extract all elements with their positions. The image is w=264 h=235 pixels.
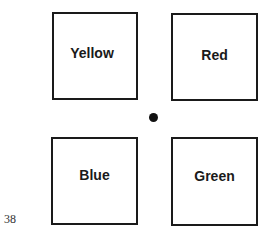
box-label-blue: Blue <box>79 167 109 183</box>
fixation-dot <box>149 113 158 122</box>
box-blue: Blue <box>51 137 138 225</box>
box-label-yellow: Yellow <box>70 45 114 61</box>
box-green: Green <box>171 137 258 226</box>
box-yellow: Yellow <box>52 12 138 100</box>
box-label-red: Red <box>201 47 227 63</box>
box-red: Red <box>171 13 258 101</box>
box-label-green: Green <box>194 168 234 184</box>
page-number: 38 <box>4 212 16 227</box>
